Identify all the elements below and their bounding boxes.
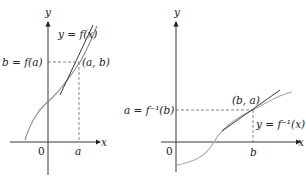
left-x-tick-label: a <box>75 145 81 157</box>
right-y-tick-label: a = f⁻¹(b) <box>124 104 174 116</box>
left-curve-f <box>25 26 97 140</box>
right-point-label: (b, a) <box>232 94 260 106</box>
left-y-tick-label: b = f(a) <box>2 56 43 68</box>
right-graph: y x 0 b a = f⁻¹(b) (b, a) y = f⁻¹(x) <box>124 6 305 172</box>
inverse-function-diagram: y x 0 a b = f(a) (a, b) y = f(x) y x 0 b… <box>0 0 306 183</box>
right-x-axis-label: x <box>298 136 304 148</box>
left-graph: y x 0 a b = f(a) (a, b) y = f(x) <box>2 6 110 175</box>
left-y-axis-label: y <box>44 6 52 18</box>
left-x-axis-label: x <box>101 136 107 148</box>
right-curve-label: y = f⁻¹(x) <box>255 118 305 130</box>
left-point-label: (a, b) <box>82 56 110 68</box>
left-curve-label: y = f(x) <box>57 28 97 40</box>
right-origin-label: 0 <box>166 145 173 157</box>
right-y-axis-label: y <box>173 6 181 18</box>
left-origin-label: 0 <box>38 145 45 157</box>
right-x-tick-label: b <box>250 146 257 158</box>
